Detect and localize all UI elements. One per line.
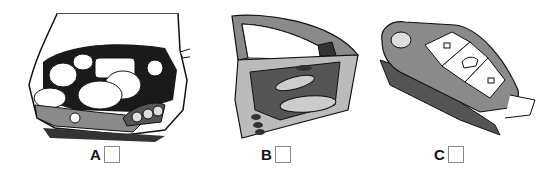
option-c-label: C <box>434 146 445 163</box>
option-c[interactable]: C <box>434 146 464 163</box>
car-engine-image <box>15 0 190 145</box>
option-b[interactable]: B <box>261 146 291 163</box>
option-a-checkbox[interactable] <box>104 146 120 163</box>
option-c-checkbox[interactable] <box>448 146 464 163</box>
option-a[interactable]: A <box>90 146 120 163</box>
option-b-checkbox[interactable] <box>275 146 291 163</box>
option-a-label: A <box>90 146 101 163</box>
option-b-label: B <box>261 146 272 163</box>
car-door-image <box>220 0 360 145</box>
car-key-fob-image <box>370 0 540 145</box>
